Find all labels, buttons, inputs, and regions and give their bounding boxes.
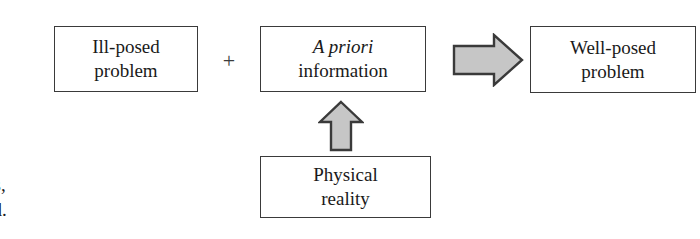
right-block-arrow-icon [452,33,524,87]
margin-text-fragment: ds, ed. [0,172,7,222]
node-physical-reality-line2: reality [321,187,370,211]
node-well-posed-problem-line2: problem [581,60,644,84]
node-ill-posed-problem: Ill-posed problem [54,26,198,92]
node-a-priori-information-line2: information [298,59,388,83]
node-a-priori-information: A priori information [260,26,426,92]
node-physical-reality: Physical reality [260,156,431,218]
node-a-priori-information-line1: A priori [313,35,373,59]
node-ill-posed-problem-line1: Ill-posed [92,35,160,59]
node-ill-posed-problem-line2: problem [94,59,157,83]
node-physical-reality-line1: Physical [313,163,377,187]
node-well-posed-problem: Well-posed problem [530,26,696,93]
up-block-arrow-icon [318,100,364,152]
margin-text-line1: ds, [0,172,7,197]
node-well-posed-problem-line1: Well-posed [570,36,656,60]
plus-operator-icon: + [214,46,244,76]
margin-text-line2: ed. [0,197,7,222]
figure-canvas: Ill-posed problem + A priori information… [0,0,700,239]
